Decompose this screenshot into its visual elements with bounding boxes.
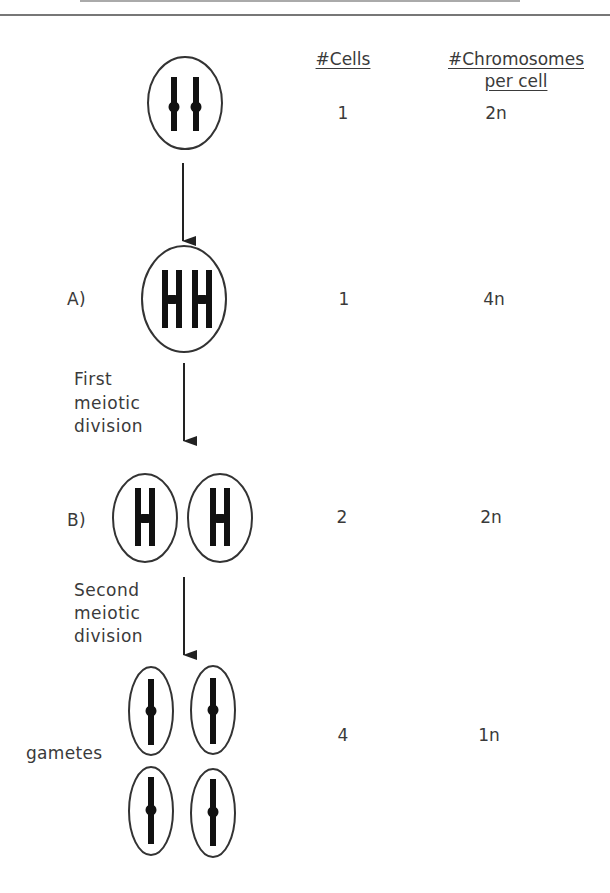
stage-a-cell <box>142 246 226 352</box>
stage-b-cell <box>188 474 252 562</box>
stage-label: gametes <box>26 743 102 764</box>
transition-label: meiotic <box>74 603 140 624</box>
stage-label: B) <box>67 510 86 531</box>
duplicated-chromosome-icon <box>162 270 182 328</box>
duplicated-chromosome-icon <box>210 488 230 546</box>
gamete-cell <box>191 666 235 754</box>
transition-label: Second <box>74 580 140 601</box>
stage-label: A) <box>67 289 86 310</box>
chromosome-count: 2n <box>461 507 521 528</box>
chromosomes-column-header-line2: per cell <box>422 71 610 92</box>
duplicated-chromosome-icon <box>192 270 212 328</box>
transition-label: division <box>74 416 143 437</box>
gamete-cell <box>129 667 173 755</box>
chromosome-icon <box>169 77 180 131</box>
cells-column-header: #Cells <box>310 49 376 70</box>
chromosome-icon <box>191 77 202 131</box>
cells-count: 1 <box>314 289 374 310</box>
cells-count: 2 <box>312 507 372 528</box>
transition-label: First <box>74 369 112 390</box>
chromosomes-column-header: #Chromosomes <box>422 49 610 70</box>
transition-label: meiotic <box>74 393 140 414</box>
gamete-cell <box>129 767 173 855</box>
stage-b-cell <box>113 474 177 562</box>
start-cell <box>148 57 222 149</box>
chromosome-count: 4n <box>464 289 524 310</box>
chromosome-count: 2n <box>466 103 526 124</box>
cells-count: 1 <box>313 103 373 124</box>
chromosome-count: 1n <box>459 725 519 746</box>
gamete-cell <box>191 769 235 857</box>
cells-count: 4 <box>313 725 373 746</box>
transition-label: division <box>74 626 143 647</box>
duplicated-chromosome-icon <box>135 488 155 546</box>
